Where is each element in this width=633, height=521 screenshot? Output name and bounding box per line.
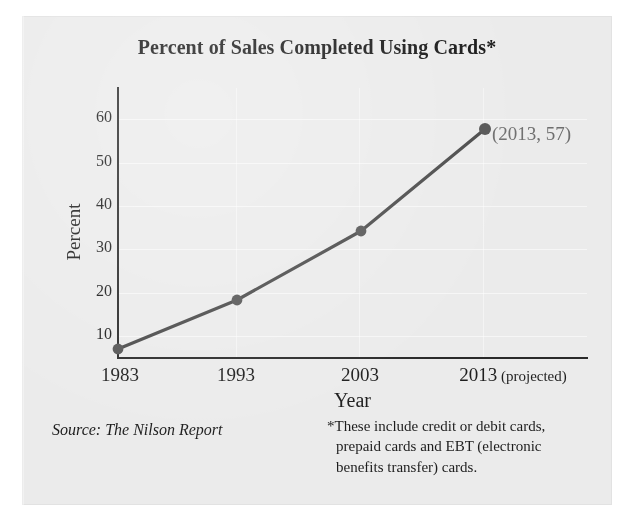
asterisk-symbol: * — [327, 418, 335, 434]
footnote-asterisk-note: *These include credit or debit cards, pr… — [327, 416, 597, 477]
footnote-line-1: *These include credit or debit cards, — [327, 416, 597, 436]
scanned-figure-panel: Percent of Sales Completed Using Cards* … — [22, 16, 612, 505]
data-point-1983 — [113, 344, 124, 355]
data-point-annotation: (2013, 57) — [492, 123, 571, 145]
data-point-1993 — [232, 295, 243, 306]
source-note: Source: The Nilson Report — [52, 421, 223, 439]
source-value: The Nilson Report — [105, 421, 222, 438]
series-line — [118, 129, 485, 349]
footnote-line-3: benefits transfer) cards. — [327, 457, 597, 477]
data-point-2003 — [356, 226, 367, 237]
source-separator: : — [96, 421, 105, 438]
data-point-2013 — [479, 123, 491, 135]
footnote-line-1-text: These include credit or debit cards, — [335, 418, 546, 434]
source-label: Source — [52, 421, 96, 438]
footnote-line-2: prepaid cards and EBT (electronic — [327, 436, 597, 456]
